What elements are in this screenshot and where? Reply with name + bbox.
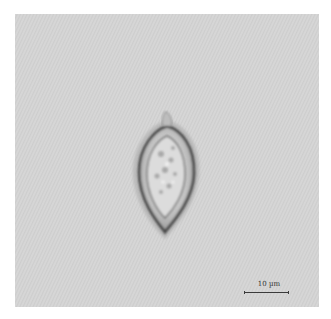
scale-bar (244, 292, 289, 293)
specimen-cell (15, 14, 319, 307)
scale-bar-label: 10 µm (249, 280, 289, 288)
micrograph-image: 10 µm (15, 14, 319, 307)
